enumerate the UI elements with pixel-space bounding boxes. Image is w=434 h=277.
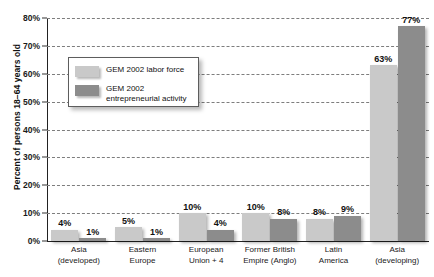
category-label-line: (developed): [58, 256, 100, 267]
bar-labor-force[interactable]: [370, 65, 397, 241]
legend-label: GEM 2002entrepreneurial activity: [106, 84, 186, 103]
x-axis-category-label: EuropeanUnion + 4: [189, 245, 224, 266]
bar-entrepreneurial-activity[interactable]: [398, 26, 425, 241]
x-axis-category-label: Asia(developing): [375, 245, 419, 266]
y-axis-tick-label: 80%: [10, 13, 40, 23]
bar-group: 63%77%: [47, 18, 429, 241]
category-label-line: Eastern: [129, 245, 157, 256]
legend-label: GEM 2002 labor force: [106, 65, 184, 75]
category-label-line: Asia: [375, 245, 419, 256]
category-label-line: Asia: [58, 245, 100, 256]
legend-swatch-dark: [75, 85, 99, 96]
legend-item[interactable]: GEM 2002entrepreneurial activity: [75, 84, 186, 103]
x-axis-baseline: [47, 241, 429, 242]
x-axis-category-label: Former BritishEmpire (Anglo): [243, 245, 296, 266]
y-axis-tick-label: 60%: [10, 69, 40, 79]
y-axis-tick-label: 0%: [10, 236, 40, 246]
category-label-line: Union + 4: [189, 256, 224, 267]
y-axis-tick-label: 50%: [10, 97, 40, 107]
bar-value-label: 63%: [374, 54, 392, 64]
x-axis-category-label: Asia(developed): [58, 245, 100, 266]
category-label-line: Empire (Anglo): [243, 256, 296, 267]
y-axis-tick-label: 70%: [10, 41, 40, 51]
category-label-line: European: [189, 245, 224, 256]
category-label-line: America: [319, 256, 348, 267]
legend-label-line: entrepreneurial activity: [106, 94, 186, 104]
category-label-line: Latin: [319, 245, 348, 256]
x-axis-category-label: EasternEurope: [129, 245, 157, 266]
bar-chart: Percent of persons 18–64 years old 4%1%5…: [0, 0, 434, 277]
x-axis-category-label: LatinAmerica: [319, 245, 348, 266]
legend-label-line: GEM 2002: [106, 84, 186, 94]
y-axis-tick-label: 40%: [10, 125, 40, 135]
y-axis-tick-label: 30%: [10, 152, 40, 162]
plot-area: 4%1%5%1%10%4%10%8%8%9%63%77%: [47, 18, 429, 241]
category-label-line: Former British: [243, 245, 296, 256]
y-axis-title: Percent of persons 18–64 years old: [12, 42, 22, 192]
legend-swatch-light: [75, 66, 99, 77]
category-label-line: (developing): [375, 256, 419, 267]
y-axis-tick-label: 20%: [10, 180, 40, 190]
legend-item[interactable]: GEM 2002 labor force: [75, 65, 184, 77]
legend-label-line: GEM 2002 labor force: [106, 65, 184, 75]
y-axis-tick-label: 10%: [10, 208, 40, 218]
bar-value-label: 77%: [402, 15, 420, 25]
category-label-line: Europe: [129, 256, 157, 267]
chart-legend: GEM 2002 labor forceGEM 2002entrepreneur…: [68, 57, 199, 107]
